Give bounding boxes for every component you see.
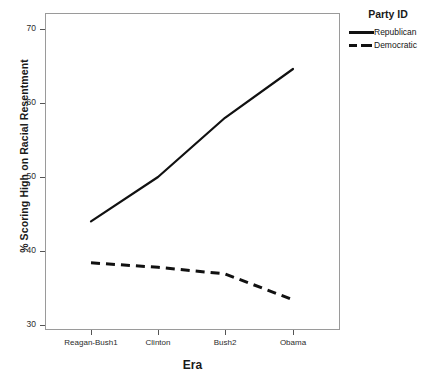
y-tick-mark xyxy=(40,29,45,30)
chart-figure: % Scoring High on Racial Resentment 70 6… xyxy=(0,0,429,384)
x-tick-mark xyxy=(293,330,294,335)
plot-area xyxy=(45,13,340,330)
x-tick-mark xyxy=(158,330,159,335)
x-tick-mark xyxy=(91,330,92,335)
legend-label: Democratic xyxy=(374,40,417,50)
y-axis-title: % Scoring High on Racial Resentment xyxy=(18,36,30,276)
y-tick-label: 70 xyxy=(27,23,36,33)
y-tick-label: 50 xyxy=(27,171,36,181)
x-tick-mark xyxy=(225,330,226,335)
y-tick-label: 30 xyxy=(27,319,36,329)
y-tick-mark xyxy=(40,103,45,104)
y-tick-mark xyxy=(40,251,45,252)
y-tick-label: 40 xyxy=(27,245,36,255)
x-tick-label: Obama xyxy=(238,338,348,347)
legend-item-democratic[interactable]: Democratic xyxy=(349,40,429,50)
legend-title: Party ID xyxy=(349,8,429,20)
y-tick-mark xyxy=(40,325,45,326)
legend: Party ID Republican Democratic xyxy=(349,8,429,53)
y-tick-mark xyxy=(40,177,45,178)
x-axis-title: Era xyxy=(45,358,340,372)
y-tick-label: 60 xyxy=(27,97,36,107)
dashed-line-swatch-icon xyxy=(349,40,374,50)
legend-item-republican[interactable]: Republican xyxy=(349,27,429,37)
solid-line-swatch-icon xyxy=(349,27,374,37)
legend-label: Republican xyxy=(374,27,417,37)
